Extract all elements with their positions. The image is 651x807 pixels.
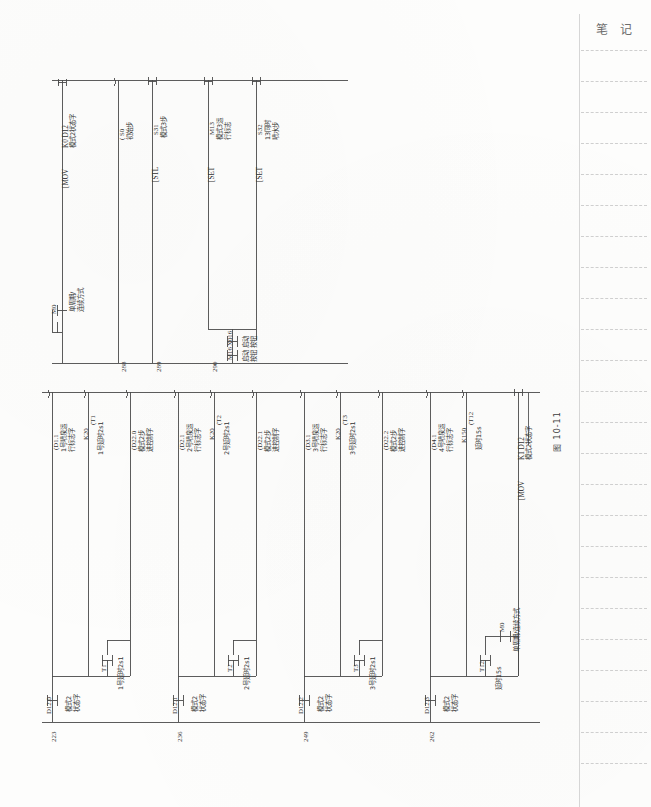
contact-249-t3-label: 3号延时2s1 — [370, 656, 378, 690]
figure-caption: 图 10-11 — [551, 411, 562, 452]
coil-223-d1-1: (D1.1 — [52, 434, 59, 450]
step-number-249: 249 — [302, 732, 310, 743]
upper-coil-s0-device: ( S0 — [118, 129, 125, 140]
upper-stl-instruction: [STL — [152, 167, 160, 182]
coil-262-t12-preset: K150 — [460, 428, 467, 443]
note-rule-line — [581, 81, 647, 82]
note-rule-line — [581, 763, 647, 764]
contact-236-t2-label: 2号延时2s1 — [244, 656, 252, 690]
note-rule-line — [581, 391, 647, 392]
note-rule-line — [581, 453, 647, 454]
upper-set-m13-instruction: [SET — [208, 167, 216, 182]
contact-236-d12-1-label: 模式2状态字 — [192, 694, 207, 712]
upper-coil-s0-label: 初始步 — [127, 122, 135, 140]
coil-236-d22-1-label: 模式2步进控制字 — [265, 428, 280, 452]
upper-stl-device: S31 — [152, 124, 159, 135]
upper-contact-x016-device: X016 — [226, 331, 233, 346]
coil-262-t12-label: 延时15s — [476, 427, 484, 450]
note-rule-line — [581, 360, 647, 361]
coil-223-t1-preset: K20 — [82, 428, 89, 440]
contact-223-t1: T1 — [100, 664, 107, 672]
coil-223-d22-0-label: 模式2步进控制字 — [139, 428, 154, 452]
contact-262-d12-3-label: 模式2状态字 — [444, 694, 459, 712]
ladder-diagram: 288 289 290 [MOV K0 D12 模式2状态字 ( S0 初始步 … — [0, 0, 575, 807]
note-rule-line — [581, 143, 647, 144]
upper-set-s32-device: S32 — [256, 124, 263, 135]
coil-249-t3-label: 3号延时2s1 — [350, 421, 358, 455]
contact-223-t1-label: 1号延时2s1 — [118, 656, 126, 690]
note-rule-line — [581, 484, 647, 485]
note-rule-line — [581, 236, 647, 237]
coil-262-d4-1-label: 4号喷泉运行标志字 — [439, 424, 454, 452]
lower-mov-instruction: [MOV — [518, 481, 526, 500]
contact-262-m0-label: 单周期/连续方式 — [514, 608, 522, 652]
coil-236-d22-1: (D22.1 — [256, 431, 263, 450]
contact-262-m0: M0 — [498, 623, 505, 632]
contact-249-d12-2-label: 模式2状态字 — [318, 694, 333, 712]
coil-223-d22-0: (D22.0 — [130, 431, 137, 450]
lower-mov-label: 模式2状态字 — [526, 426, 534, 460]
note-rule-line — [581, 50, 647, 51]
coil-223-t1: (T1 — [89, 415, 96, 425]
note-rule-line — [581, 205, 647, 206]
contact-262-t12: T12 — [478, 661, 485, 672]
scanned-book-page: 288 289 290 [MOV K0 D12 模式2状态字 ( S0 初始步 … — [0, 0, 651, 807]
coil-249-d22-2-label: 模式2步进控制字 — [391, 428, 406, 452]
note-rule-line — [581, 515, 647, 516]
note-rule-line — [581, 577, 647, 578]
coil-249-d22-2: (D22.2 — [382, 431, 389, 450]
upper-set-s32-label: 13同时喷水步 — [265, 120, 280, 140]
coil-262-d4-1: (D4.1 — [430, 434, 437, 450]
contact-249-t3: T3 — [352, 664, 359, 672]
contact-236-t2: T2 — [226, 664, 233, 672]
note-rule-line — [581, 329, 647, 330]
notes-vertical-rule — [579, 14, 580, 807]
note-rule-line — [581, 174, 647, 175]
contact-223-d12-0-label: 模式2状态字 — [66, 694, 81, 712]
step-number-223: 223 — [50, 732, 58, 743]
step-number-288: 288 — [120, 362, 128, 373]
note-rule-line — [581, 267, 647, 268]
upper-set-m13-label: 模式3运行标志 — [217, 118, 232, 140]
coil-236-t2-label: 2号延时2s1 — [224, 421, 232, 455]
upper-contact-m16-device: M16 — [226, 347, 233, 360]
note-rule-line — [581, 422, 647, 423]
upper-mov-instruction: [MOV — [62, 169, 70, 188]
coil-236-d2-1-label: 2号喷泉运行标志字 — [187, 424, 202, 452]
step-number-289: 289 — [155, 362, 163, 373]
coil-262-t12: (T12 — [467, 412, 474, 425]
upper-contact-m0-label: 单周期/连续方式 — [70, 288, 85, 312]
coil-236-d2-1: (D2.1 — [178, 434, 185, 450]
upper-contact-x016-label: 启动按钮 — [243, 336, 258, 348]
coil-223-t1-label: 1号延时2s1 — [98, 421, 106, 455]
note-rule-line — [581, 732, 647, 733]
ladder-diagram-svg — [0, 0, 575, 807]
coil-249-t3: (T3 — [341, 415, 348, 425]
coil-236-t2-preset: K20 — [208, 428, 215, 440]
upper-stl-label: 模式3步 — [161, 116, 169, 138]
notes-margin: 笔 记 — [575, 0, 651, 807]
step-number-236: 236 — [176, 732, 184, 743]
note-rule-line — [581, 298, 647, 299]
upper-set-m13-device: M13 — [208, 122, 215, 135]
upper-mov-label: 模式2状态字 — [70, 114, 78, 148]
coil-249-t3-preset: K20 — [334, 428, 341, 440]
contact-236-d12-1: D12.1 — [171, 697, 178, 714]
coil-249-d3-1-label: 3号喷泉运行标志字 — [313, 424, 328, 452]
contact-223-d12-0: D12.0 — [45, 697, 52, 714]
upper-contact-m16-label: 启动按钮 — [243, 350, 258, 362]
upper-contact-m0-device: M0 — [50, 305, 57, 314]
coil-236-t2: (T2 — [215, 415, 222, 425]
step-number-262: 262 — [428, 732, 436, 743]
contact-249-d12-2: D12.2 — [297, 697, 304, 714]
contact-262-d12-3: D12.3 — [423, 697, 430, 714]
note-rule-line — [581, 639, 647, 640]
note-rule-line — [581, 670, 647, 671]
notes-title: 笔 记 — [585, 20, 647, 37]
note-rule-line — [581, 701, 647, 702]
note-rule-line — [581, 546, 647, 547]
coil-249-d3-1: (D3.1 — [304, 434, 311, 450]
note-rule-line — [581, 112, 647, 113]
note-rule-line — [581, 608, 647, 609]
contact-262-t12-label: 延时15s — [496, 667, 504, 690]
